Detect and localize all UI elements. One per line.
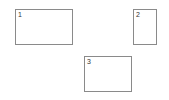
box-2[interactable]: 2 <box>133 9 157 45</box>
box-1[interactable]: 1 <box>15 9 73 45</box>
box-1-label: 1 <box>18 11 22 19</box>
diagram-canvas: 1 2 3 <box>0 0 169 100</box>
box-2-label: 2 <box>136 11 140 19</box>
box-3-label: 3 <box>87 58 91 66</box>
box-3[interactable]: 3 <box>84 56 132 92</box>
